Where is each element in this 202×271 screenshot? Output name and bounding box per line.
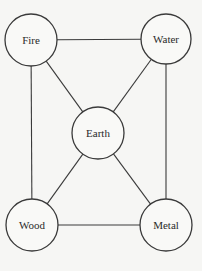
edge-fire-water	[57, 39, 141, 40]
node-label-metal: Metal	[153, 219, 179, 231]
edge-fire-earth	[46, 61, 83, 112]
edge-wood-earth	[47, 154, 83, 204]
edge-fire-wood	[31, 66, 32, 199]
node-label-wood: Wood	[19, 219, 46, 231]
nodes-group: FireWaterEarthWoodMetal	[5, 14, 192, 251]
node-label-earth: Earth	[86, 127, 110, 139]
node-wood: Wood	[6, 199, 58, 251]
edge-water-earth	[113, 59, 151, 112]
node-label-fire: Fire	[22, 34, 40, 46]
node-earth: Earth	[72, 107, 124, 159]
five-elements-diagram: FireWaterEarthWoodMetal	[0, 0, 202, 271]
node-label-water: Water	[153, 33, 179, 45]
node-metal: Metal	[140, 199, 192, 251]
node-water: Water	[141, 14, 191, 64]
edge-metal-earth	[113, 154, 150, 204]
node-fire: Fire	[5, 14, 57, 66]
